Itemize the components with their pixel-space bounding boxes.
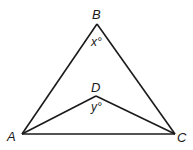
vertex-label-d: D [91,80,100,95]
vertex-label-b: B [92,7,101,22]
segment-bc [97,24,175,134]
vertex-label-a: A [6,129,16,144]
angle-label-x: x° [90,35,102,49]
triangle-diagram: B x° D y° A C [0,0,193,150]
angle-label-y: y° [90,100,102,114]
segment-ab [22,24,97,134]
vertex-label-c: C [177,130,187,145]
segment-ad [22,96,96,134]
segment-dc [96,96,175,134]
